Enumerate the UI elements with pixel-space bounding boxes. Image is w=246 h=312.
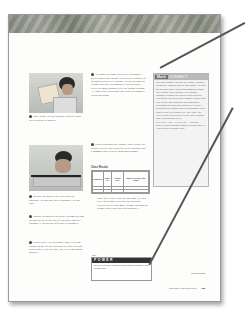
math-connect-text: The ratio "mass to volume" (or "mass : v… [154, 80, 208, 131]
table-header-row: Substance Mass (g) Volume (mL) Mass-to-v… [93, 172, 149, 187]
textbook-page: Pour 100 mL of your substance into the b… [8, 14, 221, 302]
table-header: Volume (mL) [112, 172, 124, 187]
step-6: Subtract the mass of the beaker (column … [29, 215, 85, 225]
copy-results-text: Copy these results into your notebook. (… [97, 197, 149, 211]
step-5: Measure the mass of the beaker plus the … [29, 195, 85, 205]
step-8: The mass-to-volume ratio is the relation… [91, 73, 147, 97]
footer-section: Chemistry and Resources 135 [169, 287, 205, 290]
continued-label: CONTINUED [191, 272, 205, 275]
class-results-table: Substance Mass (g) Volume (mL) Mass-to-v… [91, 170, 150, 194]
step-9: When each group has finished, your teach… [91, 143, 147, 153]
math-equation: 5 g / 8 mL = 5/8 = 0.6 g / 1 mL = 0.6 g/… [156, 121, 198, 123]
step-4: Pour 100 mL of your substance into the b… [29, 115, 85, 122]
header-banner-image [9, 15, 220, 33]
math-connect-box: Math CONNECT The ratio "mass to volume" … [153, 73, 209, 187]
page-number: 135 [201, 287, 205, 290]
table-header: Mass-to-volume ratio (g/mL) [123, 172, 148, 187]
photo-student-balance [29, 145, 83, 191]
skill-power-box: Skill POWER To review how to measure mas… [91, 257, 152, 281]
table-row [93, 190, 149, 193]
table-header: Substance [93, 172, 104, 187]
photo-student-pouring [29, 73, 83, 113]
class-results-title: Class Results [91, 166, 108, 169]
table-header: Mass (g) [103, 172, 111, 187]
step-7: Repeat steps 3 to 5 four more times, eac… [29, 241, 85, 255]
